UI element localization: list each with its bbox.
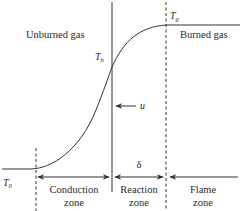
reaction-zone-sublabel: zone [129, 197, 149, 208]
ignition-temperature-label: Tb [95, 51, 105, 63]
reaction-zone-label: Reaction [120, 184, 158, 195]
velocity-label: u [140, 100, 145, 111]
initial-temperature-label: T0 [3, 177, 13, 189]
flame-zone-sublabel: zone [193, 197, 213, 208]
flame-zone-label: Flame [190, 184, 217, 195]
conduction-zone-sublabel: zone [64, 197, 84, 208]
reaction-thickness-label: δ [137, 159, 142, 170]
burned-gas-label: Burned gas [180, 29, 228, 40]
temperature-profile-curve [2, 25, 240, 169]
unburned-gas-label: Unburned gas [26, 29, 85, 40]
flame-structure-diagram: u Unburned gas Burned gas T0 Tb Tg δ Con… [0, 0, 242, 211]
flame-temperature-label: Tg [170, 10, 180, 22]
conduction-zone-label: Conduction [50, 184, 100, 195]
